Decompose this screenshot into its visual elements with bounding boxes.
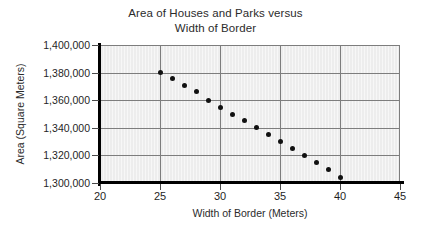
scatter-chart-figure: Area of Houses and Parks versus Width of… xyxy=(0,0,431,230)
data-point xyxy=(314,160,319,165)
x-axis-tick-label: 30 xyxy=(200,191,240,202)
gridline-vertical xyxy=(220,45,221,183)
y-axis-tick-mark xyxy=(92,155,99,156)
y-axis-tick-label: 1,380,000 xyxy=(20,68,90,79)
y-axis-title: Area (Square Meters) xyxy=(14,54,26,174)
gridline-horizontal xyxy=(100,155,400,156)
y-axis-tick-label: 1,340,000 xyxy=(20,123,90,134)
y-axis-tick-mark xyxy=(92,100,99,101)
plot-area xyxy=(100,45,400,183)
gridline-vertical xyxy=(340,45,341,183)
gridline-vertical xyxy=(280,45,281,183)
y-axis-tick-label: 1,400,000 xyxy=(20,40,90,51)
chart-title-line-1: Area of Houses and Parks versus xyxy=(0,6,431,21)
chart-title: Area of Houses and Parks versus Width of… xyxy=(0,6,431,36)
gridline-vertical xyxy=(160,45,161,183)
x-axis-tick-label: 25 xyxy=(140,191,180,202)
data-point xyxy=(290,146,295,151)
y-axis-tick-label: 1,360,000 xyxy=(20,95,90,106)
x-axis-tick-label: 20 xyxy=(80,191,120,202)
plot-right-border xyxy=(399,45,400,183)
data-point xyxy=(218,105,223,110)
plot-background-texture xyxy=(100,45,400,183)
plot-top-border xyxy=(100,45,400,46)
data-point xyxy=(326,167,331,172)
x-axis-tick-label: 45 xyxy=(380,191,420,202)
gridline-horizontal xyxy=(100,100,400,101)
gridline-horizontal xyxy=(100,128,400,129)
chart-title-line-2: Width of Border xyxy=(0,21,431,36)
data-point xyxy=(158,70,163,75)
data-point xyxy=(170,76,175,81)
y-axis-line xyxy=(98,43,101,186)
data-point xyxy=(230,112,235,117)
data-point xyxy=(278,139,283,144)
y-axis-tick-mark xyxy=(92,73,99,74)
x-axis-tick-label: 40 xyxy=(320,191,360,202)
y-axis-tick-mark xyxy=(92,45,99,46)
x-axis-title: Width of Border (Meters) xyxy=(100,207,400,219)
y-axis-tick-mark xyxy=(92,183,99,184)
data-point xyxy=(254,125,259,130)
data-point xyxy=(266,132,271,137)
data-point xyxy=(302,153,307,158)
y-axis-tick-label: 1,300,000 xyxy=(20,178,90,189)
y-axis-tick-label: 1,320,000 xyxy=(20,150,90,161)
gridline-horizontal xyxy=(100,73,400,74)
data-point xyxy=(182,83,187,88)
data-point xyxy=(206,98,211,103)
data-point xyxy=(338,175,343,180)
x-axis-tick-label: 35 xyxy=(260,191,300,202)
y-axis-tick-mark xyxy=(92,128,99,129)
data-point xyxy=(242,118,247,123)
data-point xyxy=(194,89,199,94)
x-axis-line xyxy=(98,181,404,184)
